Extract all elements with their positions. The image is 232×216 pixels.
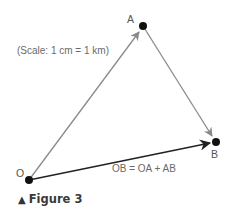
vector-ob-resultant — [29, 143, 210, 180]
point-a — [139, 22, 147, 30]
point-o — [25, 176, 33, 184]
triangle-marker-icon: ▲ — [18, 194, 26, 205]
figure-caption-text: Figure 3 — [29, 192, 83, 206]
vector-ab — [143, 26, 212, 136]
scale-note: (Scale: 1 cm = 1 km) — [17, 46, 109, 56]
point-a-label: A — [127, 14, 134, 25]
vector-addition-figure: A B O (Scale: 1 cm = 1 km) OB = OA + AB … — [0, 0, 232, 216]
vector-diagram — [0, 0, 232, 216]
figure-caption: ▲Figure 3 — [18, 194, 82, 206]
vector-equation: OB = OA + AB — [112, 164, 176, 174]
point-b — [212, 138, 220, 146]
point-b-label: B — [211, 149, 218, 160]
point-o-label: O — [16, 168, 24, 179]
